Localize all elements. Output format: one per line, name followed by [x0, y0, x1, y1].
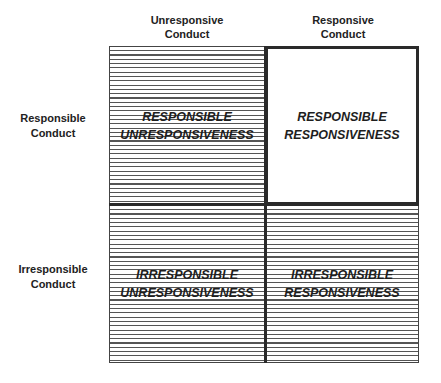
row-header-irresponsible: Irresponsible Conduct — [0, 262, 106, 292]
quadrant-responsible-unresponsiveness: RESPONSIBLE UNRESPONSIVENESS — [109, 46, 265, 205]
quadrant-matrix: RESPONSIBLE UNRESPONSIVENESS RESPONSIBLE… — [109, 46, 419, 363]
row-header-responsible: Responsible Conduct — [0, 111, 106, 141]
column-header-responsive: Responsive Conduct — [265, 13, 421, 41]
quadrant-irresponsible-unresponsiveness: IRRESPONSIBLE UNRESPONSIVENESS — [109, 205, 265, 363]
quadrant-line1: RESPONSIBLE — [284, 108, 399, 126]
row-header-line2: Conduct — [0, 126, 106, 141]
quadrant-line2: RESPONSIVENESS — [284, 284, 399, 302]
column-header-unresponsive: Unresponsive Conduct — [109, 13, 265, 41]
row-header-line1: Irresponsible — [0, 262, 106, 277]
quadrant-irresponsible-responsiveness: IRRESPONSIBLE RESPONSIVENESS — [265, 205, 419, 363]
quadrant-line1: RESPONSIBLE — [120, 108, 253, 126]
column-header-line1: Unresponsive — [109, 13, 265, 27]
column-header-line1: Responsive — [265, 13, 421, 27]
quadrant-line2: RESPONSIVENESS — [284, 126, 399, 144]
row-header-line1: Responsible — [0, 111, 106, 126]
column-header-line2: Conduct — [265, 27, 421, 41]
horizontal-divider — [109, 203, 419, 206]
quadrant-line1: IRRESPONSIBLE — [284, 266, 399, 284]
quadrant-line2: UNRESPONSIVENESS — [120, 126, 253, 144]
quadrant-line1: IRRESPONSIBLE — [120, 266, 253, 284]
row-header-line2: Conduct — [0, 277, 106, 292]
quadrant-responsible-responsiveness: RESPONSIBLE RESPONSIVENESS — [265, 46, 419, 205]
quadrant-line2: UNRESPONSIVENESS — [120, 284, 253, 302]
column-header-line2: Conduct — [109, 27, 265, 41]
